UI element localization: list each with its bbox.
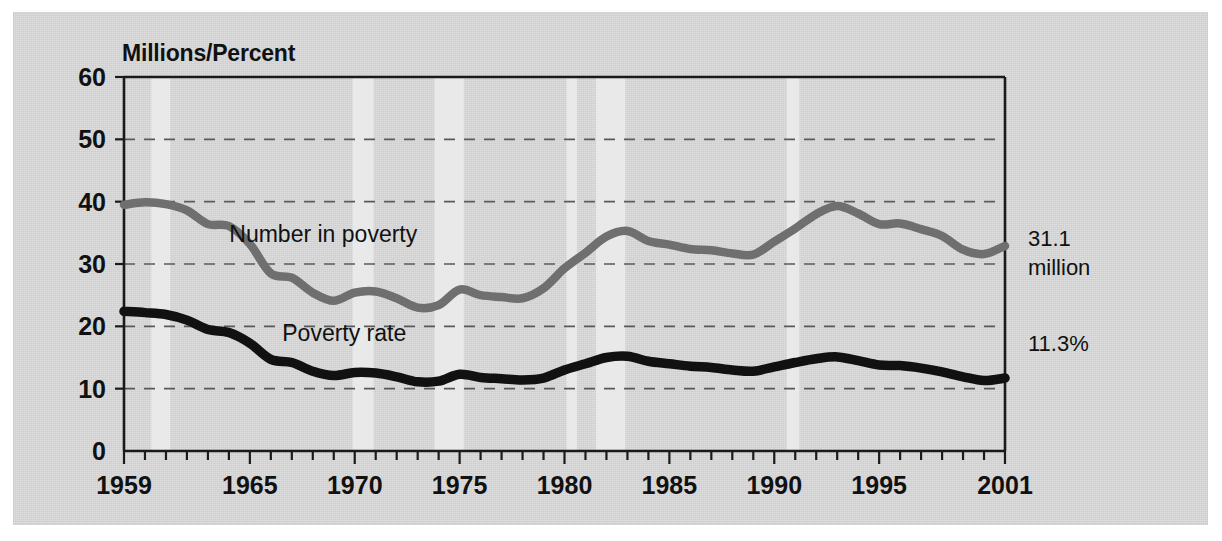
series-label-poverty-rate: Poverty rate (282, 320, 406, 346)
annotation-number-value: 31.1 (1028, 226, 1071, 251)
x-axis-label: 1959 (96, 471, 152, 499)
chart-plot-area: 0102030405060 19591965197019751980198519… (0, 0, 1195, 513)
x-axis-label: 1990 (746, 471, 802, 499)
annotation-number-unit: million (1028, 255, 1090, 280)
x-axis-label: 1995 (851, 471, 907, 499)
x-axis-label: 1985 (642, 471, 698, 499)
series-label-number-in-poverty: Number in poverty (229, 221, 417, 247)
y-axis-label: 20 (78, 312, 106, 340)
x-axis-label: 1970 (327, 471, 383, 499)
y-axis-label: 30 (78, 250, 106, 278)
y-axis-label: 50 (78, 125, 106, 153)
x-axis-label: 1965 (222, 471, 278, 499)
x-axis-label: 1975 (432, 471, 488, 499)
x-axis-label: 2001 (977, 471, 1033, 499)
y-axis-label: 40 (78, 188, 106, 216)
y-axis-label: 0 (92, 437, 106, 465)
series-labels: Number in povertyPoverty rate (229, 221, 417, 346)
series-line-number-in-poverty (124, 202, 1005, 308)
chart-page: Millions/Percent 0102030405060 195919651… (0, 0, 1222, 541)
poverty-line-chart: 0102030405060 19591965197019751980198519… (0, 0, 1222, 541)
y-axis-label: 10 (78, 375, 106, 403)
annotation-rate-value: 11.3% (1028, 331, 1089, 356)
x-axis-label: 1980 (537, 471, 593, 499)
series-line-poverty-rate (124, 311, 1005, 382)
y-axis-label: 60 (78, 63, 106, 91)
x-axis-labels: 195919651970197519801985199019952001 (96, 471, 1033, 499)
y-axis-labels: 0102030405060 (78, 63, 106, 465)
